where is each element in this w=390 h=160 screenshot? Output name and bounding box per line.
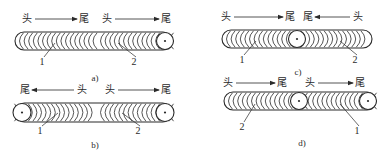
ripple-mark xyxy=(89,33,93,49)
ripple-mark xyxy=(277,31,281,47)
callout-number: 2 xyxy=(240,122,245,132)
ripple-mark xyxy=(74,104,78,121)
ripple-mark xyxy=(38,104,42,121)
ripple-mark xyxy=(142,104,146,121)
ripple-mark xyxy=(270,93,274,109)
ripple-mark xyxy=(324,31,328,47)
ripple-mark xyxy=(233,93,237,109)
callout-number: 1 xyxy=(240,55,245,65)
ripple-mark xyxy=(361,31,365,47)
panel-c xyxy=(222,17,372,55)
weld-segment-1 xyxy=(20,33,98,49)
ripple-mark xyxy=(242,93,246,109)
ripple-mark xyxy=(79,33,83,49)
label-tail: 尾 xyxy=(285,12,295,22)
ripple-mark xyxy=(268,31,272,47)
ripple-mark xyxy=(114,104,118,121)
ripple-mark xyxy=(356,31,360,47)
ripple-mark xyxy=(313,93,317,109)
ripple-mark xyxy=(105,33,109,49)
ripple-mark xyxy=(147,33,151,49)
ripple-mark xyxy=(240,31,244,47)
ripple-mark xyxy=(47,33,51,49)
ripple-mark xyxy=(336,93,340,109)
ripple-mark xyxy=(350,93,354,109)
crater-dot-icon xyxy=(367,100,369,102)
leader-line xyxy=(244,104,255,122)
ripple-mark xyxy=(33,104,37,121)
ripple-mark xyxy=(254,31,258,47)
ripple-mark xyxy=(47,104,51,121)
ripple-mark xyxy=(306,31,310,47)
panel-a xyxy=(15,19,174,57)
panel-caption: a) xyxy=(92,73,99,83)
label-head: 头 xyxy=(353,12,363,22)
label-tail: 尾 xyxy=(355,78,365,88)
ripple-mark xyxy=(245,31,249,47)
ripple-mark xyxy=(282,31,286,47)
ripple-mark xyxy=(263,31,267,47)
ripple-mark xyxy=(151,33,155,49)
ripple-mark xyxy=(347,31,351,47)
ripple-mark xyxy=(345,93,349,109)
ripple-mark xyxy=(33,33,37,49)
ripple-mark xyxy=(256,93,260,109)
ripple-mark xyxy=(315,31,319,47)
ripple-mark xyxy=(310,31,314,47)
callout-number: 1 xyxy=(355,126,360,136)
ripple-mark xyxy=(65,104,69,121)
weld-sequence-diagram xyxy=(0,0,390,160)
label-head: 头 xyxy=(223,78,233,88)
label-head: 头 xyxy=(305,78,315,88)
ripple-mark xyxy=(29,33,33,49)
ripple-mark xyxy=(327,93,331,109)
ripple-mark xyxy=(284,93,288,109)
ripple-mark xyxy=(124,104,128,121)
ripple-mark xyxy=(147,104,151,121)
ripple-mark xyxy=(24,33,28,49)
ripple-mark xyxy=(119,104,123,121)
ripple-mark xyxy=(56,104,60,121)
crater-dot-icon xyxy=(21,111,23,113)
ripple-mark xyxy=(329,31,333,47)
ripple-mark xyxy=(320,31,324,47)
ripple-mark xyxy=(133,33,137,49)
ripple-mark xyxy=(43,33,47,49)
callout-number: 1 xyxy=(40,57,45,67)
ripple-mark xyxy=(275,93,279,109)
ripple-mark xyxy=(317,93,321,109)
label-head: 头 xyxy=(105,85,115,95)
weld-segment-1 xyxy=(229,93,297,109)
ripple-mark xyxy=(354,93,358,109)
ripple-mark xyxy=(333,31,337,47)
ripple-mark xyxy=(84,104,88,121)
ripple-mark xyxy=(110,104,114,121)
ripple-mark xyxy=(84,33,88,49)
ripple-mark xyxy=(261,93,265,109)
label-head: 头 xyxy=(22,14,32,24)
ripple-mark xyxy=(70,33,74,49)
ripple-mark xyxy=(265,93,269,109)
label-tail: 尾 xyxy=(303,12,313,22)
label-head: 头 xyxy=(77,85,87,95)
label-tail: 尾 xyxy=(79,14,89,24)
ripple-mark xyxy=(93,33,97,49)
ripple-mark xyxy=(151,104,155,121)
callout-number: 2 xyxy=(132,57,137,67)
label-tail: 尾 xyxy=(161,85,171,95)
ripple-mark xyxy=(236,31,240,47)
panel-b xyxy=(13,90,174,126)
ripple-mark xyxy=(273,31,277,47)
panel-caption: c) xyxy=(295,67,302,77)
label-head: 头 xyxy=(221,12,231,22)
ripple-mark xyxy=(128,33,132,49)
callout-number: 2 xyxy=(353,55,358,65)
panel-caption: d) xyxy=(298,138,306,148)
callout-number: 2 xyxy=(136,126,141,136)
label-tail: 尾 xyxy=(20,85,30,95)
ripple-mark xyxy=(247,93,251,109)
ripple-mark xyxy=(70,104,74,121)
ripple-mark xyxy=(79,104,83,121)
ripple-mark xyxy=(322,93,326,109)
panel-d xyxy=(224,83,377,126)
